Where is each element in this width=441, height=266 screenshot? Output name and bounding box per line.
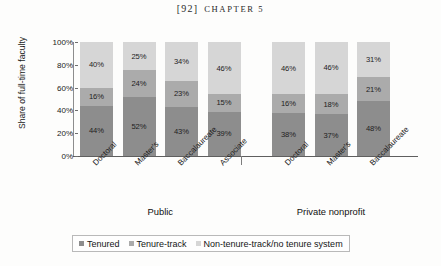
legend-label: Tenure-track [137,239,187,249]
y-tick-label: 20% [57,129,73,138]
segment-tenure-track: 18% [315,94,348,114]
y-tick-label: 100% [53,38,73,47]
y-axis-label: Share of full-time faculty [17,23,27,143]
chart-legend: TenuredTenure-trackNon-tenure-track/no t… [72,235,350,252]
segment-non-tenure-track: 40% [80,42,113,88]
y-tick-label: 40% [57,106,73,115]
group-label-private-nonprofit: Private nonprofit [261,206,401,217]
y-tick-label: 80% [57,60,73,69]
running-head: [92]CHAPTER 5 [0,3,441,14]
y-tick-label: 60% [57,83,73,92]
bar-public-associate[interactable]: 46%15%39% [208,42,241,156]
segment-tenure-track: 21% [357,77,390,101]
bar-public-doctoral[interactable]: 40%16%44% [80,42,113,156]
segment-tenure-track: 15% [208,94,241,111]
segment-non-tenure-track: 46% [208,42,241,94]
x-axis-line [73,156,418,157]
segment-tenure-track: 16% [272,94,305,112]
page-number: [92] [177,3,198,14]
group-separator [241,156,242,165]
legend-swatch-tenured-icon [79,241,84,246]
bar-public-masters[interactable]: 25%24%52% [123,42,156,156]
bar-public-baccalaureate[interactable]: 34%23%43% [165,42,198,156]
legend-item-tenured[interactable]: Tenured [79,239,120,249]
segment-non-tenure-track: 46% [272,42,305,94]
segment-non-tenure-track: 25% [123,42,156,70]
legend-swatch-non-tenure-track-icon [196,241,201,246]
segment-non-tenure-track: 31% [357,42,390,77]
plot-area: 0%20%40%60%80%100% 40%16%44%25%24%52%34%… [50,42,418,156]
book-page: [92]CHAPTER 5 Share of full-time faculty… [0,0,441,266]
group-label-public: Public [90,206,230,217]
legend-item-tenure-track[interactable]: Tenure-track [129,239,187,249]
y-tick-label: 0% [61,152,73,161]
legend-swatch-tenure-track-icon [129,241,134,246]
stacked-bar-chart: Share of full-time faculty 0%20%40%60%80… [0,26,441,226]
segment-tenure-track: 16% [80,88,113,106]
y-tick-0pct: 0% [50,156,78,157]
bar-private-nonprofit-masters[interactable]: 46%18%37% [315,42,348,156]
bar-private-nonprofit-doctoral[interactable]: 46%16%38% [272,42,305,156]
segment-non-tenure-track: 34% [165,42,198,81]
legend-label: Non-tenure-track/no tenure system [204,239,343,249]
chapter-title: CHAPTER 5 [204,4,264,14]
segment-non-tenure-track: 46% [315,42,348,94]
legend-label: Tenured [87,239,120,249]
bar-private-nonprofit-baccalaureate[interactable]: 31%21%48% [357,42,390,156]
y-tick-mark [75,156,78,157]
segment-tenure-track: 23% [165,81,198,107]
legend-item-non-tenure-track[interactable]: Non-tenure-track/no tenure system [196,239,343,249]
segment-tenure-track: 24% [123,70,156,97]
